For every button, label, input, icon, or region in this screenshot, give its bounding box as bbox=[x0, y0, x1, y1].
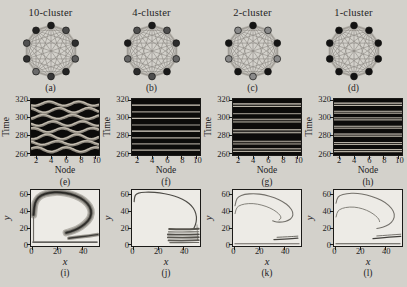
raster-plot bbox=[232, 98, 302, 156]
y-tick-mark bbox=[330, 153, 333, 154]
cluster-node bbox=[148, 22, 155, 29]
network-graph-icon bbox=[222, 20, 284, 82]
x-tick-label: 20 bbox=[353, 247, 367, 256]
raster-panel-f: Time 260280300320 246810 Node (f) bbox=[101, 98, 202, 188]
x-axis-label: x bbox=[333, 256, 403, 267]
x-tick-label: 10 bbox=[90, 156, 104, 165]
x-tick-label: 10 bbox=[292, 156, 306, 165]
x-tick-label: 2 bbox=[332, 156, 346, 165]
x-tick-label: 2 bbox=[231, 156, 245, 165]
x-axis-label: Node bbox=[30, 165, 100, 176]
figure-column-3: 2-cluster (c) Time 260280300320 246810 N… bbox=[202, 5, 303, 287]
panel-label: (h) bbox=[333, 176, 403, 188]
attractor-panel-i: y 0204060 02040 x (i) bbox=[0, 189, 101, 279]
y-tick-label: 260 bbox=[217, 150, 230, 159]
cluster-node bbox=[62, 68, 69, 75]
y-axis-ticks: 0204060 bbox=[112, 189, 131, 247]
y-tick-mark bbox=[128, 211, 131, 212]
cluster-title: 2-cluster bbox=[202, 5, 303, 20]
y-tick-mark bbox=[330, 228, 333, 229]
raster-panel-h: Time 260280300320 246810 Node (h) bbox=[303, 98, 404, 188]
cluster-node bbox=[350, 22, 357, 29]
y-tick-mark bbox=[27, 100, 30, 101]
y-tick-mark bbox=[229, 100, 232, 101]
y-tick-mark bbox=[229, 135, 232, 136]
cluster-node bbox=[124, 55, 131, 62]
x-tick-label: 40 bbox=[76, 247, 90, 256]
y-axis-ticks: 0204060 bbox=[314, 189, 333, 247]
x-axis-label: x bbox=[131, 256, 201, 267]
cluster-node bbox=[335, 68, 342, 75]
phase-plot bbox=[333, 189, 403, 247]
x-tick-label: 2 bbox=[130, 156, 144, 165]
attractor-panel-k: y 0204060 02040 x (k) bbox=[202, 189, 303, 279]
panel-label: (d) bbox=[303, 82, 404, 94]
x-axis-ticks: 02040 bbox=[30, 247, 100, 256]
x-tick-label: 10 bbox=[191, 156, 205, 165]
cluster-node bbox=[124, 40, 131, 47]
figure-column-4: 1-cluster (d) Time 260280300320 246810 N… bbox=[303, 5, 404, 287]
x-tick-label: 20 bbox=[252, 247, 266, 256]
x-axis-ticks: 02040 bbox=[232, 247, 302, 256]
x-tick-label: 4 bbox=[44, 156, 58, 165]
y-axis-ticks: 260280300320 bbox=[112, 98, 131, 156]
network-graph-icon bbox=[121, 20, 183, 82]
x-tick-label: 20 bbox=[50, 247, 64, 256]
cluster-node bbox=[249, 22, 256, 29]
y-tick-mark bbox=[128, 194, 131, 195]
x-axis-ticks: 02040 bbox=[333, 247, 403, 256]
y-tick-mark bbox=[330, 100, 333, 101]
x-tick-label: 0 bbox=[226, 247, 240, 256]
attractor-panel-j: y 0204060 02040 x (j) bbox=[101, 189, 202, 279]
cluster-node bbox=[273, 40, 280, 47]
y-tick-label: 260 bbox=[318, 150, 331, 159]
x-tick-label: 6 bbox=[160, 156, 174, 165]
y-tick-mark bbox=[229, 194, 232, 195]
network-graph-icon bbox=[323, 20, 385, 82]
y-tick-mark bbox=[27, 135, 30, 136]
cluster-node bbox=[350, 73, 357, 80]
y-tick-mark bbox=[128, 100, 131, 101]
panel-label: (a) bbox=[0, 82, 101, 94]
y-axis-label: Time bbox=[202, 98, 213, 156]
raster-panel-g: Time 260280300320 246810 Node (g) bbox=[202, 98, 303, 188]
y-tick-mark bbox=[330, 117, 333, 118]
network-graph-icon bbox=[20, 20, 82, 82]
cluster-node bbox=[374, 40, 381, 47]
phase-plot bbox=[131, 189, 201, 247]
phase-plot bbox=[30, 189, 100, 247]
y-axis-label: y bbox=[202, 189, 213, 247]
x-axis-label: Node bbox=[232, 165, 302, 176]
cluster-node bbox=[47, 22, 54, 29]
y-tick-mark bbox=[27, 117, 30, 118]
x-tick-label: 4 bbox=[145, 156, 159, 165]
panel-label: (i) bbox=[30, 267, 100, 279]
x-tick-label: 40 bbox=[379, 247, 393, 256]
y-tick-mark bbox=[128, 117, 131, 118]
y-tick-label: 260 bbox=[15, 150, 28, 159]
x-tick-label: 6 bbox=[362, 156, 376, 165]
cluster-node bbox=[32, 27, 39, 34]
raster-plot bbox=[333, 98, 403, 156]
x-tick-label: 40 bbox=[278, 247, 292, 256]
cluster-node bbox=[374, 55, 381, 62]
x-axis-ticks: 246810 bbox=[333, 156, 403, 165]
x-tick-label: 8 bbox=[175, 156, 189, 165]
x-axis-label: Node bbox=[333, 165, 403, 176]
x-tick-label: 0 bbox=[327, 247, 341, 256]
x-tick-label: 6 bbox=[59, 156, 73, 165]
panel-label: (e) bbox=[30, 176, 100, 188]
cluster-title: 4-cluster bbox=[101, 5, 202, 20]
raster-panel-e: Time 260280300320 246810 Node (e) bbox=[0, 98, 101, 188]
x-tick-label: 0 bbox=[24, 247, 38, 256]
x-axis-ticks: 246810 bbox=[232, 156, 302, 165]
y-tick-mark bbox=[229, 117, 232, 118]
y-axis-label: Time bbox=[101, 98, 112, 156]
x-tick-label: 20 bbox=[151, 247, 165, 256]
x-tick-label: 10 bbox=[393, 156, 407, 165]
x-tick-label: 40 bbox=[177, 247, 191, 256]
y-axis-ticks: 0204060 bbox=[213, 189, 232, 247]
x-tick-label: 2 bbox=[29, 156, 43, 165]
x-tick-label: 4 bbox=[246, 156, 260, 165]
cluster-node bbox=[71, 55, 78, 62]
